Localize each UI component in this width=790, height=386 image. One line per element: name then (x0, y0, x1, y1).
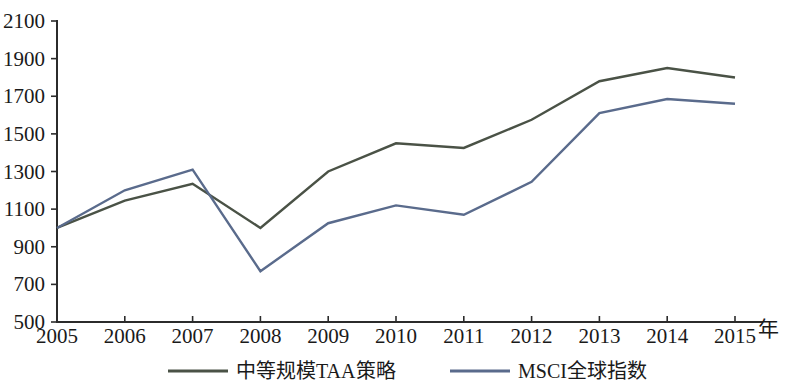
y-axis-tick-label: 1100 (4, 197, 45, 221)
x-axis-tick-label: 2010 (375, 324, 417, 348)
x-axis-tick-label: 2007 (172, 324, 214, 348)
y-axis-tick-labels: 500700900110013001500170019002100 (3, 9, 45, 334)
x-axis-tick-label: 2014 (646, 324, 689, 348)
x-axis-tick-labels: 2005200620072008200920102011201220132014… (36, 324, 756, 348)
x-axis-tick-label: 2005 (36, 324, 78, 348)
y-axis-tick-label: 2100 (3, 9, 45, 33)
y-axis-tick-label: 1900 (3, 47, 45, 71)
y-axis-tick-label: 900 (14, 235, 46, 259)
x-axis-tick-label: 2009 (307, 324, 349, 348)
series-line-taa (57, 68, 735, 228)
x-axis-tick-label: 2011 (443, 324, 484, 348)
chart-canvas: 500700900110013001500170019002100 200520… (0, 0, 790, 386)
y-axis-tick-label: 1700 (3, 84, 45, 108)
x-axis-tick-label: 2015 (714, 324, 756, 348)
y-axis-tick-label: 700 (14, 272, 46, 296)
series-line-msci (57, 99, 735, 271)
y-axis-tick-label: 1300 (3, 160, 45, 184)
chart-legend: 中等规模TAA策略 MSCI全球指数 (168, 360, 647, 382)
x-axis-tick-label: 2006 (104, 324, 146, 348)
x-axis-unit-label: 年 (758, 317, 779, 341)
legend-label-msci: MSCI全球指数 (518, 360, 647, 382)
x-axis-tick-label: 2012 (511, 324, 553, 348)
x-axis-tick-label: 2008 (239, 324, 281, 348)
y-axis-tick-label: 1500 (3, 122, 45, 146)
x-axis-tick-label: 2013 (578, 324, 620, 348)
legend-label-taa: 中等规模TAA策略 (236, 360, 396, 382)
line-chart: 500700900110013001500170019002100 200520… (0, 0, 790, 386)
